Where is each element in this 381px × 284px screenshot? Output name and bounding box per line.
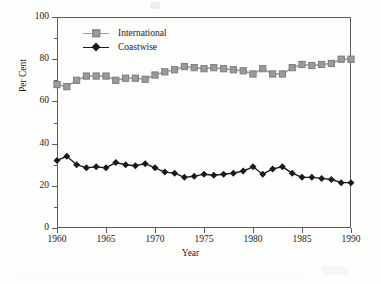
x-tick-major: [253, 228, 254, 233]
diamond-marker-icon: [93, 163, 100, 170]
series-line: [57, 59, 351, 86]
square-marker-icon: [123, 75, 129, 81]
square-marker-icon: [299, 61, 305, 67]
diamond-marker-icon: [112, 159, 119, 166]
diamond-marker-icon: [83, 41, 109, 53]
x-tick-label: 1970: [133, 234, 177, 244]
square-marker-icon: [211, 65, 217, 71]
legend-label-international: International: [118, 28, 167, 38]
legend-item-coastwise: Coastwise: [83, 40, 167, 54]
square-marker-icon: [172, 67, 178, 73]
chart-figure: Per Cent 020406080100 196019651970197519…: [0, 0, 381, 284]
x-tick-label: 1975: [182, 234, 226, 244]
square-marker-icon: [319, 61, 325, 67]
x-tick-label: 1965: [84, 234, 128, 244]
x-tick-major: [204, 228, 205, 233]
square-marker-icon: [162, 69, 168, 75]
square-marker-icon: [338, 56, 344, 62]
diamond-marker-icon: [230, 170, 237, 177]
chart-legend: International Coastwise: [83, 26, 167, 54]
y-tick-label: 40: [7, 139, 49, 148]
square-marker-icon: [328, 60, 334, 66]
y-tick-label: 0: [7, 223, 49, 232]
y-tick-label: 60: [7, 96, 49, 105]
square-marker-icon: [113, 77, 119, 83]
square-marker-icon: [260, 66, 266, 72]
diamond-marker-icon: [122, 161, 129, 168]
legend-label-coastwise: Coastwise: [118, 42, 157, 52]
diamond-marker-icon: [201, 171, 208, 178]
x-tick-major: [57, 228, 58, 233]
diamond-marker-icon: [181, 174, 188, 181]
y-tick-label: 80: [7, 54, 49, 63]
x-tick-major: [351, 228, 352, 233]
square-marker-icon: [309, 62, 315, 68]
diamond-marker-icon: [54, 157, 61, 164]
square-marker-icon: [142, 76, 148, 82]
legend-item-international: International: [83, 26, 167, 40]
diamond-marker-icon: [348, 179, 355, 186]
square-marker-icon: [279, 71, 285, 77]
series-international: [54, 56, 354, 90]
square-marker-icon: [83, 27, 109, 39]
x-tick-major: [155, 228, 156, 233]
square-marker-icon: [270, 71, 276, 77]
square-marker-icon: [221, 66, 227, 72]
square-marker-icon: [83, 73, 89, 79]
diamond-marker-icon: [152, 164, 159, 171]
y-tick-label: 100: [7, 12, 49, 21]
diamond-marker-icon: [240, 168, 247, 175]
square-marker-icon: [230, 67, 236, 73]
diamond-marker-icon: [132, 162, 139, 169]
diamond-marker-icon: [328, 176, 335, 183]
diamond-marker-icon: [318, 175, 325, 182]
series-line: [57, 156, 351, 182]
x-axis-label: Year: [0, 248, 381, 258]
diamond-marker-icon: [191, 173, 198, 180]
diamond-marker-icon: [161, 169, 168, 176]
diamond-marker-icon: [83, 164, 90, 171]
square-marker-icon: [181, 63, 187, 69]
diamond-marker-icon: [289, 170, 296, 177]
square-marker-icon: [74, 77, 80, 83]
square-marker-icon: [54, 81, 60, 87]
square-marker-icon: [201, 66, 207, 72]
square-marker-icon: [240, 68, 246, 74]
square-marker-icon: [93, 73, 99, 79]
x-tick-major: [302, 228, 303, 233]
x-tick-label: 1990: [329, 234, 373, 244]
diamond-marker-icon: [142, 160, 149, 167]
diamond-marker-icon: [220, 171, 227, 178]
x-tick-label: 1980: [231, 234, 275, 244]
square-marker-icon: [348, 56, 354, 62]
series-coastwise: [54, 153, 355, 186]
square-marker-icon: [103, 73, 109, 79]
diamond-marker-icon: [279, 163, 286, 170]
diamond-marker-icon: [299, 174, 306, 181]
square-marker-icon: [152, 72, 158, 78]
square-marker-icon: [191, 65, 197, 71]
square-marker-icon: [132, 75, 138, 81]
y-axis-label: Per Cent: [18, 59, 28, 92]
x-tick-label: 1960: [35, 234, 79, 244]
diamond-marker-icon: [210, 172, 217, 179]
square-marker-icon: [64, 84, 70, 90]
diamond-marker-icon: [171, 170, 178, 177]
diamond-marker-icon: [338, 179, 345, 186]
square-marker-icon: [289, 65, 295, 71]
diamond-marker-icon: [103, 164, 110, 171]
x-tick-major: [106, 228, 107, 233]
diamond-marker-icon: [308, 174, 315, 181]
y-tick-label: 20: [7, 181, 49, 190]
diamond-marker-icon: [269, 165, 276, 172]
square-marker-icon: [250, 71, 256, 77]
x-tick-label: 1985: [280, 234, 324, 244]
